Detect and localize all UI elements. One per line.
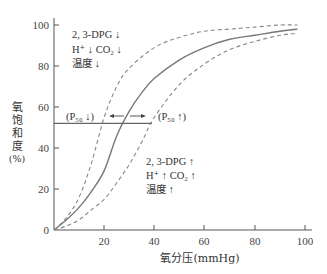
- y-ticks: 100 80 60 40 20 0: [33, 19, 60, 236]
- right-shift-factor-h-co2: H⁺ ↑ CO₂ ↑: [146, 170, 196, 181]
- left-shift-factor-h-co2: H⁺ ↓ CO₂ ↓: [72, 44, 122, 55]
- left-shift-factor-dpg: 2, 3-DPG ↓: [72, 29, 120, 40]
- x-ticks: 20 40 60 80 100: [99, 225, 314, 247]
- p50-increase-label: (P₅₀ ↑): [158, 111, 187, 123]
- right-shift-factor-temp: 温度 ↑: [146, 183, 174, 195]
- y-axis-label: 氧 饱 和 度 (%): [9, 100, 25, 164]
- y-tick-20: 20: [38, 183, 50, 195]
- x-tick-80: 80: [250, 235, 262, 247]
- y-tick-60: 60: [38, 101, 50, 113]
- x-tick-40: 40: [149, 235, 161, 247]
- right-shift-factor-dpg: 2, 3-DPG ↑: [146, 156, 194, 167]
- arrow-right-icon: [141, 114, 146, 118]
- arrow-left-icon: [109, 114, 114, 118]
- y-tick-80: 80: [38, 60, 50, 72]
- x-tick-20: 20: [99, 235, 111, 247]
- y-tick-40: 40: [38, 142, 50, 154]
- x-tick-60: 60: [199, 235, 211, 247]
- svg-text:饱: 饱: [12, 113, 23, 127]
- curve-left-shift: [54, 25, 298, 230]
- svg-text:度: 度: [12, 139, 23, 153]
- oxygen-dissociation-chart: 100 80 60 40 20 0 20 40 60 80 100 氧分压(mm…: [0, 0, 327, 274]
- svg-text:和: 和: [12, 127, 23, 140]
- left-shift-factor-temp: 温度 ↓: [72, 57, 100, 69]
- x-tick-100: 100: [297, 235, 314, 247]
- curves: [54, 25, 298, 230]
- p50-decrease-label: (P₅₀ ↓): [66, 111, 95, 123]
- y-tick-100: 100: [33, 19, 50, 31]
- x-axis-label: 氧分压(mmHg): [160, 251, 239, 265]
- svg-text:氧: 氧: [12, 100, 23, 114]
- svg-text:(%): (%): [9, 153, 25, 164]
- y-tick-0: 0: [44, 224, 50, 236]
